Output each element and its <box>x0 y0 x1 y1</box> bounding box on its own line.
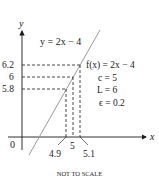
annotation-epsilon: ϵ = 0.2 <box>99 98 125 108</box>
y-tick-6: 6 <box>9 72 14 82</box>
x-tick-4.9: 4.9 <box>49 149 61 159</box>
not-to-scale-note: NOT TO SCALE <box>57 170 103 177</box>
epsilon-delta-diagram: y x 0 y = 2x − 4 6.2 6 5.8 4.9 5 5.1 f(x… <box>0 0 159 183</box>
annotation-c: c = 5 <box>98 73 117 83</box>
annotation-L: L = 6 <box>97 85 118 95</box>
function-line <box>29 30 100 155</box>
y-axis-label: y <box>18 18 24 29</box>
x-tick-5: 5 <box>70 141 75 151</box>
function-label: y = 2x − 4 <box>40 36 81 47</box>
y-tick-6.2: 6.2 <box>2 60 14 70</box>
annotation-f: f(x) = 2x − 4 <box>86 60 135 71</box>
x-tick-5.1: 5.1 <box>83 149 95 159</box>
origin-label: 0 <box>10 139 15 150</box>
y-tick-5.8: 5.8 <box>2 84 14 94</box>
dashed-guides <box>22 65 80 137</box>
x-axis-label: x <box>149 131 155 142</box>
